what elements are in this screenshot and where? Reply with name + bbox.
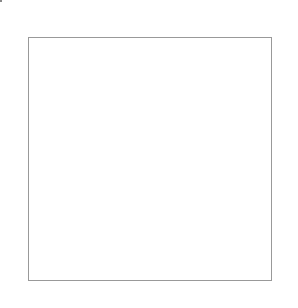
repeat-outline (0, 0, 2, 2)
trellis-grid (28, 37, 272, 281)
